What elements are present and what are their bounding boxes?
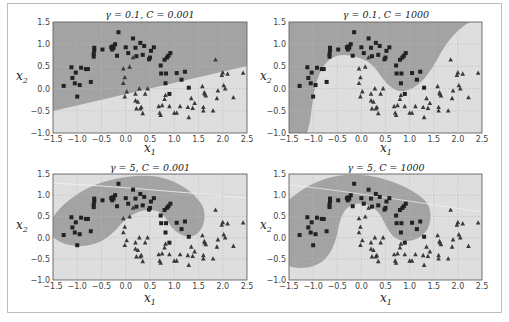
square-marker <box>168 51 172 55</box>
x-tick-label: −0.5 <box>328 135 347 144</box>
square-marker <box>138 192 142 196</box>
square-marker <box>311 95 315 99</box>
square-marker <box>75 95 79 99</box>
square-marker <box>369 46 373 50</box>
subplot-title: γ = 0.1, C = 1000 <box>343 9 429 20</box>
square-marker <box>183 70 187 74</box>
square-marker <box>113 193 117 197</box>
square-marker <box>79 66 83 70</box>
square-marker <box>399 72 403 76</box>
square-marker <box>422 235 426 239</box>
square-marker <box>73 81 77 85</box>
y-tick-label: −0.5 <box>31 107 50 116</box>
square-marker <box>370 205 374 209</box>
square-marker <box>422 86 426 90</box>
x-tick-label: 2.0 <box>216 135 229 144</box>
square-marker <box>351 54 355 58</box>
square-marker <box>62 233 66 237</box>
y-tick-label: 0.0 <box>37 234 50 243</box>
y-axis-label: x2 <box>16 69 28 85</box>
square-marker <box>131 36 135 40</box>
square-marker <box>305 65 309 69</box>
square-marker <box>62 84 66 88</box>
square-marker <box>112 46 116 50</box>
square-marker <box>315 66 319 70</box>
square-marker <box>309 231 313 235</box>
subplot-top-right: −1.5−1.0−0.50.00.51.01.52.02.5 −1.0−0.50… <box>260 9 488 157</box>
square-marker <box>322 217 326 221</box>
subplot-bottom-right: −1.5−1.0−0.50.00.51.01.52.02.5 −1.0−0.50… <box>260 162 488 307</box>
square-marker <box>152 196 156 200</box>
y-tick-label: 1.5 <box>37 170 50 179</box>
square-marker <box>384 206 388 210</box>
square-marker <box>315 216 319 220</box>
y-tick-label: −0.5 <box>31 255 50 264</box>
square-marker <box>69 65 73 69</box>
square-marker <box>374 192 378 196</box>
square-marker <box>159 72 163 76</box>
square-marker <box>183 219 187 223</box>
square-marker <box>328 46 332 50</box>
square-marker <box>92 52 96 56</box>
x-tick-label: 1.5 <box>427 282 440 291</box>
x-tick-label: 2.5 <box>241 135 254 144</box>
x-tick-label: 2.0 <box>452 282 465 291</box>
square-marker <box>395 221 399 225</box>
square-marker <box>376 53 380 57</box>
square-marker <box>134 54 138 58</box>
square-marker <box>149 49 153 53</box>
y-tick-label: −1.0 <box>31 276 50 285</box>
square-marker <box>133 197 137 201</box>
square-marker <box>124 196 128 200</box>
square-marker <box>74 220 78 224</box>
x-tick-label: 2.5 <box>476 135 489 144</box>
square-marker <box>168 202 172 206</box>
square-marker <box>325 80 329 84</box>
square-marker <box>394 64 398 68</box>
square-marker <box>100 48 104 52</box>
square-marker <box>399 231 403 235</box>
y-tick-label: 0.5 <box>273 212 286 221</box>
square-marker <box>126 51 130 55</box>
square-marker <box>418 70 422 74</box>
x-tick-label: −0.5 <box>92 282 111 291</box>
square-marker <box>359 196 363 200</box>
square-marker <box>349 193 353 197</box>
subplot-bottom-left: −1.5−1.0−0.50.00.51.01.52.02.5 −1.0−0.50… <box>16 162 253 307</box>
square-marker <box>325 229 329 233</box>
square-marker <box>328 197 332 201</box>
square-marker <box>415 227 419 231</box>
square-marker <box>138 41 142 45</box>
square-marker <box>404 202 408 206</box>
x-tick-label: 2.0 <box>216 282 229 291</box>
subplot-title: γ = 5, C = 1000 <box>347 162 424 173</box>
square-marker <box>92 197 96 201</box>
x-tick-label: −1.0 <box>303 135 322 144</box>
square-marker <box>384 49 388 53</box>
square-marker <box>311 243 315 247</box>
subplot-title: γ = 0.1, C = 0.001 <box>105 9 194 20</box>
y-tick-label: 1.5 <box>273 170 286 179</box>
y-axis-label: x2 <box>260 69 272 85</box>
square-marker <box>113 42 117 46</box>
square-marker <box>124 45 128 49</box>
square-marker <box>159 221 163 225</box>
square-marker <box>410 71 414 75</box>
square-marker <box>133 46 137 50</box>
square-marker <box>141 53 145 57</box>
square-marker <box>89 229 93 233</box>
square-marker <box>399 221 403 225</box>
square-marker <box>175 221 179 225</box>
square-marker <box>349 42 353 46</box>
square-marker <box>164 81 168 85</box>
square-marker <box>187 86 191 90</box>
x-tick-label: 1.0 <box>403 135 416 144</box>
square-marker <box>347 46 351 50</box>
square-marker <box>336 48 340 52</box>
square-marker <box>78 83 82 87</box>
square-marker <box>404 51 408 55</box>
x-tick-label: 0.0 <box>119 135 132 144</box>
square-marker <box>187 235 191 239</box>
square-marker <box>78 232 82 236</box>
x-tick-label: 0.5 <box>144 282 157 291</box>
